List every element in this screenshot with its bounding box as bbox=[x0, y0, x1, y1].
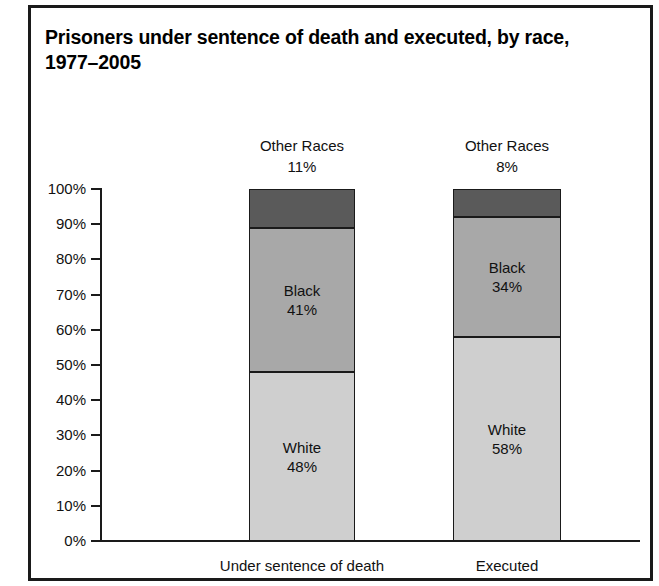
y-tick-mark-90 bbox=[91, 223, 101, 225]
bar2-segment-black[interactable]: Black 34% bbox=[453, 217, 561, 337]
bar1-white-name: White bbox=[283, 438, 321, 457]
bar1-segment-black[interactable]: Black 41% bbox=[249, 228, 355, 372]
bar2-segment-other-races[interactable] bbox=[453, 189, 561, 217]
y-tick-mark-30 bbox=[91, 434, 101, 436]
bar1-other-races-value: 11% bbox=[229, 157, 375, 176]
bar2-white-value: 58% bbox=[492, 439, 522, 458]
bar1-other-races-name: Other Races bbox=[229, 136, 375, 155]
y-tick-mark-10 bbox=[91, 505, 101, 507]
bar1-white-value: 48% bbox=[287, 457, 317, 476]
bar1-black-name: Black bbox=[284, 281, 321, 300]
y-tick-label-70: 70% bbox=[28, 287, 86, 302]
bar1-segment-white[interactable]: White 48% bbox=[249, 372, 355, 541]
x-category-label-executed: Executed bbox=[427, 557, 587, 575]
y-tick-mark-60 bbox=[91, 329, 101, 331]
y-tick-label-0: 0% bbox=[28, 533, 86, 548]
y-tick-mark-80 bbox=[91, 258, 101, 260]
y-tick-label-30: 30% bbox=[28, 427, 86, 442]
y-tick-mark-50 bbox=[91, 364, 101, 366]
bar-under-sentence-of-death[interactable]: Black 41% White 48% bbox=[249, 189, 355, 541]
y-tick-mark-70 bbox=[91, 294, 101, 296]
bar1-black-value: 41% bbox=[287, 300, 317, 319]
y-tick-label-10: 10% bbox=[28, 498, 86, 513]
bar2-segment-white[interactable]: White 58% bbox=[453, 337, 561, 541]
y-tick-label-100: 100% bbox=[28, 181, 86, 196]
bar2-other-races-value: 8% bbox=[434, 157, 580, 176]
bar2-other-races-name: Other Races bbox=[434, 136, 580, 155]
y-tick-mark-20 bbox=[91, 470, 101, 472]
bar2-black-value: 34% bbox=[492, 277, 522, 296]
y-tick-mark-100 bbox=[91, 188, 101, 190]
bar2-white-name: White bbox=[488, 420, 526, 439]
y-tick-label-50: 50% bbox=[28, 357, 86, 372]
y-tick-label-90: 90% bbox=[28, 216, 86, 231]
bar1-segment-other-races[interactable] bbox=[249, 189, 355, 228]
y-tick-mark-40 bbox=[91, 399, 101, 401]
y-tick-mark-0 bbox=[91, 540, 101, 542]
plot-area: 100% 90% 80% 70% 60% 50% 40% 30% 20% 10%… bbox=[31, 8, 656, 584]
chart-figure-frame: Prisoners under sentence of death and ex… bbox=[28, 5, 653, 581]
bar-executed[interactable]: Black 34% White 58% bbox=[453, 189, 561, 541]
bar2-black-name: Black bbox=[489, 258, 526, 277]
x-category-label-under-sentence-of-death: Under sentence of death bbox=[207, 557, 397, 575]
y-tick-label-20: 20% bbox=[28, 463, 86, 478]
y-tick-label-60: 60% bbox=[28, 322, 86, 337]
y-tick-label-40: 40% bbox=[28, 392, 86, 407]
y-tick-label-80: 80% bbox=[28, 251, 86, 266]
